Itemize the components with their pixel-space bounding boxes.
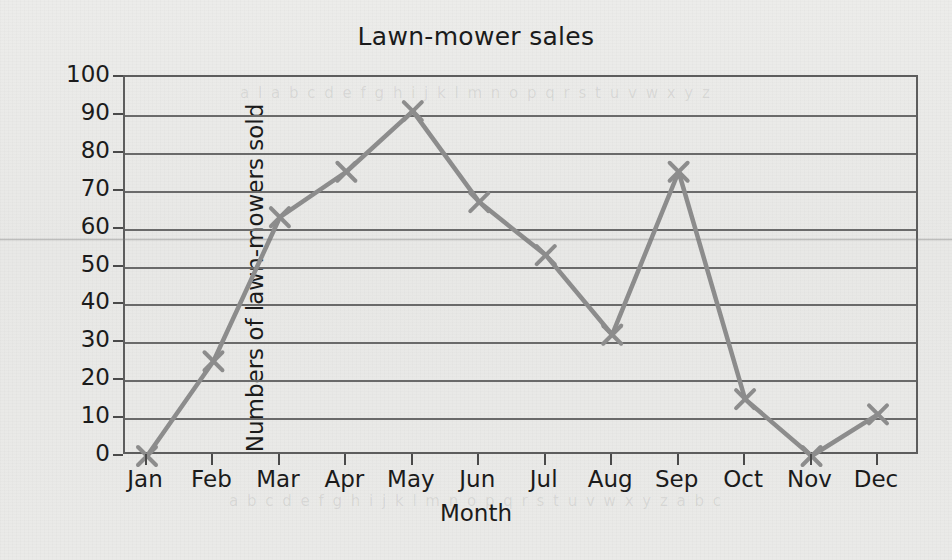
chart-page: a l a b c d e f g h i j k l m n o p q r … <box>0 0 952 560</box>
data-point-marker <box>138 447 156 465</box>
y-axis-tick-label: 90 <box>50 101 110 124</box>
x-axis-tick-label: Apr <box>309 466 379 492</box>
data-point-marker <box>204 352 222 370</box>
x-axis-tick-label: Oct <box>708 466 778 492</box>
y-axis-tick-label: 100 <box>50 63 110 86</box>
x-axis-tick <box>211 454 213 465</box>
plot-area <box>123 75 918 454</box>
x-axis-tick <box>477 454 479 465</box>
x-axis-tick <box>145 454 147 465</box>
y-axis-tick-label: 30 <box>50 328 110 351</box>
x-axis-tick-label: Feb <box>176 466 246 492</box>
y-axis-tick-label: 50 <box>50 253 110 276</box>
y-axis-tick-label: 60 <box>50 215 110 238</box>
y-axis-tick-label: 0 <box>50 442 110 465</box>
data-series-line <box>125 77 920 456</box>
y-axis-tick <box>113 227 123 229</box>
x-axis-tick <box>677 454 679 465</box>
y-axis-tick <box>113 189 123 191</box>
y-axis-tick-label: 40 <box>50 290 110 313</box>
y-axis-tick <box>113 151 123 153</box>
data-point-marker <box>803 447 821 465</box>
y-axis-tick-label: 80 <box>50 139 110 162</box>
data-point-marker <box>337 163 355 181</box>
y-axis-tick <box>113 113 123 115</box>
y-axis-tick-label: 20 <box>50 366 110 389</box>
chart-title: Lawn-mower sales <box>0 22 952 51</box>
y-axis-tick <box>113 454 123 456</box>
x-axis-tick <box>876 454 878 465</box>
data-point-marker <box>271 208 289 226</box>
x-axis-tick-label: Aug <box>575 466 645 492</box>
x-axis-tick <box>810 454 812 465</box>
data-point-marker <box>404 102 422 120</box>
x-axis-tick-label: Sep <box>642 466 712 492</box>
y-axis-tick <box>113 340 123 342</box>
data-point-marker <box>869 405 887 423</box>
x-axis-tick <box>344 454 346 465</box>
x-axis-tick-label: Dec <box>841 466 911 492</box>
y-axis-tick-labels: 1009080706050403020100 <box>40 0 110 560</box>
data-point-marker <box>537 246 555 264</box>
x-axis-tick-label: Jul <box>509 466 579 492</box>
x-axis-tick <box>743 454 745 465</box>
x-axis-tick <box>610 454 612 465</box>
x-axis-tick <box>544 454 546 465</box>
x-axis-tick <box>411 454 413 465</box>
y-axis-tick-label: 70 <box>50 177 110 200</box>
y-axis-tick <box>113 416 123 418</box>
x-axis-tick-label: Jan <box>110 466 180 492</box>
x-axis-title: Month <box>0 500 952 526</box>
y-axis-tick <box>113 265 123 267</box>
y-axis-tick <box>113 302 123 304</box>
series-polyline <box>147 111 878 456</box>
y-axis-tick <box>113 378 123 380</box>
x-axis-tick-label: Jun <box>442 466 512 492</box>
x-axis-tick-label: Mar <box>243 466 313 492</box>
x-axis-tick-label: Nov <box>775 466 845 492</box>
y-axis-tick <box>113 75 123 77</box>
x-axis-tick <box>278 454 280 465</box>
data-point-marker <box>470 193 488 211</box>
data-point-marker <box>603 326 621 344</box>
y-axis-tick-label: 10 <box>50 404 110 427</box>
x-axis-tick-label: May <box>376 466 446 492</box>
